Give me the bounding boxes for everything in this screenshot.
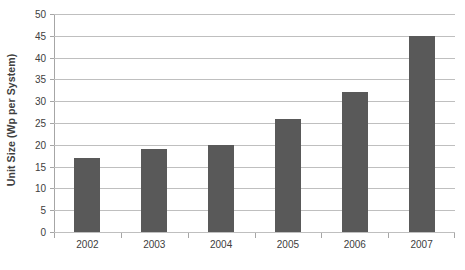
bar (409, 36, 435, 232)
x-axis-tick-mark (388, 233, 389, 238)
bar (275, 119, 301, 232)
x-axis-tick-labels: 200220032004200520062007 (54, 239, 455, 257)
bar (74, 158, 100, 232)
gridline (54, 14, 455, 15)
gridline (54, 58, 455, 59)
y-axis-tick-label: 35 (35, 74, 46, 85)
y-axis-tick-label: 15 (35, 161, 46, 172)
y-axis-tick-labels: 05101520253035404550 (22, 14, 50, 233)
plot-area (54, 14, 455, 233)
y-axis-tick-label: 0 (40, 227, 46, 238)
y-axis-tick-mark (50, 167, 54, 168)
x-axis-tick-mark (454, 233, 455, 238)
gridline (54, 79, 455, 80)
y-axis-title-text: Unit Size (Wp per System) (5, 54, 17, 187)
gridline (54, 101, 455, 102)
gridline (54, 123, 455, 124)
y-axis-tick-mark (50, 36, 54, 37)
x-axis-tick-mark (121, 233, 122, 238)
y-axis-tick-mark (50, 210, 54, 211)
y-axis-tick-mark (50, 145, 54, 146)
bar (208, 145, 234, 232)
bar (342, 92, 368, 232)
gridline (54, 167, 455, 168)
y-axis-tick-label: 10 (35, 183, 46, 194)
x-axis-tick-mark (255, 233, 256, 238)
bar-chart: Unit Size (Wp per System) 05101520253035… (0, 0, 465, 270)
bar (141, 149, 167, 232)
x-axis-tick-mark (321, 233, 322, 238)
gridline (54, 145, 455, 146)
y-axis-tick-label: 30 (35, 96, 46, 107)
x-axis-tick-label: 2007 (410, 239, 432, 250)
y-axis-tick-mark (50, 14, 54, 15)
y-axis-tick-mark (50, 188, 54, 189)
gridline (54, 36, 455, 37)
y-axis-tick-label: 25 (35, 118, 46, 129)
x-axis-tick-label: 2003 (143, 239, 165, 250)
y-axis-tick-label: 40 (35, 52, 46, 63)
y-axis-tick-mark (50, 101, 54, 102)
y-axis-title: Unit Size (Wp per System) (0, 0, 22, 240)
y-axis-tick-label: 5 (40, 205, 46, 216)
gridline (54, 188, 455, 189)
x-axis-tick-label: 2006 (344, 239, 366, 250)
y-axis-tick-label: 45 (35, 30, 46, 41)
x-axis-tick-mark (188, 233, 189, 238)
x-axis-tick-mark (54, 233, 55, 238)
gridline (54, 210, 455, 211)
y-axis-tick-mark (50, 79, 54, 80)
x-axis-tick-label: 2005 (277, 239, 299, 250)
y-axis-tick-label: 20 (35, 139, 46, 150)
y-axis-tick-mark (50, 58, 54, 59)
y-axis-tick-label: 50 (35, 9, 46, 20)
x-axis-tick-label: 2004 (210, 239, 232, 250)
y-axis-tick-mark (50, 123, 54, 124)
x-axis-tick-label: 2002 (76, 239, 98, 250)
